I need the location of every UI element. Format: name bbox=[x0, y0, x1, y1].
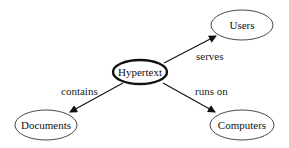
edge-label-runs-on: runs on bbox=[195, 85, 228, 97]
svg-text:Computers: Computers bbox=[218, 119, 266, 131]
node-users: Users bbox=[211, 10, 273, 40]
edge-label-serves: serves bbox=[196, 50, 224, 62]
svg-text:Hypertext: Hypertext bbox=[118, 66, 162, 78]
node-documents: Documents bbox=[15, 110, 77, 140]
svg-text:Users: Users bbox=[229, 19, 254, 31]
node-computers: Computers bbox=[210, 110, 274, 140]
concept-map-diagram: serves contains runs on Hypertext Users … bbox=[0, 0, 289, 148]
svg-text:Documents: Documents bbox=[21, 119, 71, 131]
node-hypertext: Hypertext bbox=[113, 60, 167, 84]
diagram-svg: serves contains runs on Hypertext Users … bbox=[0, 0, 289, 148]
edge-label-contains: contains bbox=[61, 85, 98, 97]
